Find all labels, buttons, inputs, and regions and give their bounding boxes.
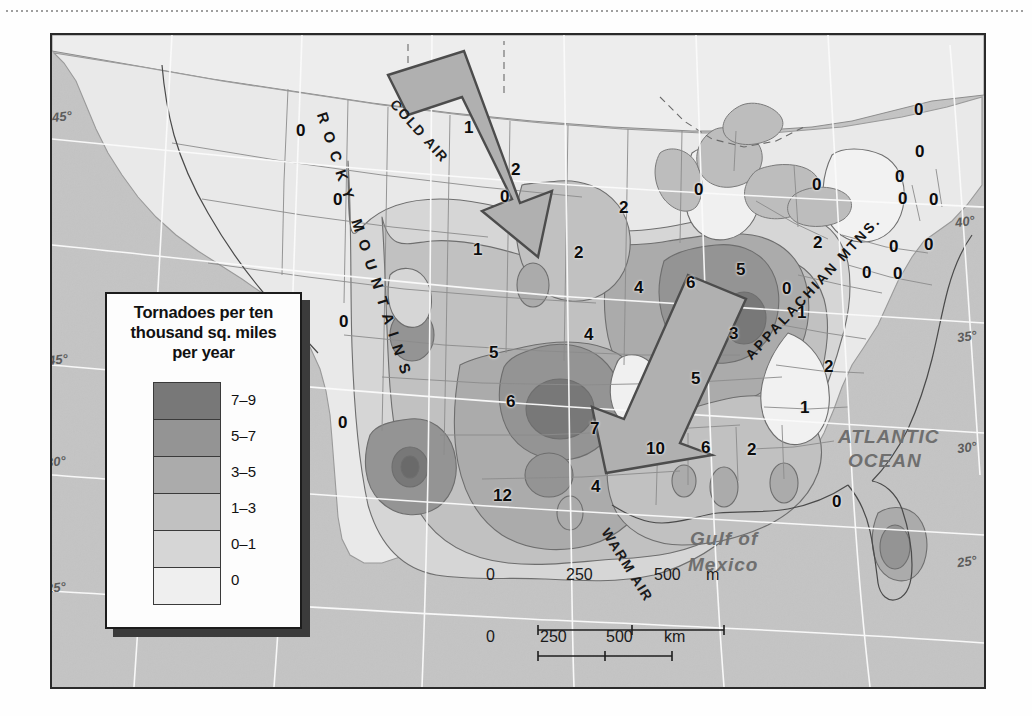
tornado-value: 1 [464,118,473,138]
tornado-value: 2 [813,233,822,253]
tornado-value: 1 [473,240,482,260]
tornado-value: 2 [574,243,583,263]
geo-label: OCEAN [848,450,922,472]
tornado-value: 6 [701,438,710,458]
tornado-value: 4 [591,477,600,497]
latitude-label-right: 35° [956,328,978,346]
tornado-value: 4 [584,325,593,345]
geo-label: Gulf of [690,528,758,550]
tornado-value: 0 [832,492,841,512]
legend-swatch-column [153,382,221,605]
tornado-value: 0 [812,175,821,195]
scale-tick-km: 0 [486,628,495,646]
tornado-value: 1 [800,398,809,418]
latitude-label-left: 45° [51,108,72,125]
page-top-rule [6,10,1026,12]
tornado-value: 0 [694,180,703,200]
tornado-value: 10 [646,439,665,459]
legend-title: Tornadoes per ten thousand sq. miles per… [114,302,293,362]
tornado-value: 0 [862,263,871,283]
tornado-value: 0 [893,264,902,284]
legend-label-column: 7–95–73–51–30–10 [231,382,256,598]
legend-range-label: 7–9 [231,382,256,418]
legend-swatch-2 [154,457,220,494]
legend-range-label: 3–5 [231,454,256,490]
latitude-label-right: 40° [954,213,976,231]
page-canvas: 0120020000001246520000010003452561710621… [0,0,1032,716]
tornado-value: 12 [493,486,512,506]
scale-tick-miles: 0 [486,566,495,584]
tornado-value: 0 [339,312,348,332]
latitude-label-left: 25° [50,579,66,596]
tornado-value: 7 [590,419,599,439]
legend-box: Tornadoes per ten thousand sq. miles per… [105,292,302,629]
tornado-value: 0 [782,279,791,299]
legend-range-label: 0–1 [231,526,256,562]
tornado-value: 6 [506,392,515,412]
tornado-value: 2 [824,357,833,377]
tornado-value: 5 [691,369,700,389]
tornado-value: 0 [924,235,933,255]
legend-range-label: 5–7 [231,418,256,454]
tornado-value: 3 [729,324,738,344]
latitude-label-right: 30° [956,439,978,457]
tornado-value: 2 [747,440,756,460]
geo-label: Mexico [688,554,758,576]
scale-tick-miles: 500 [654,566,681,584]
tornado-value: 0 [915,142,924,162]
tornado-value: 6 [686,273,695,293]
tornado-value: 0 [296,121,305,141]
scale-tick-km: 500 [606,628,633,646]
tornado-value: 0 [898,189,907,209]
tornado-value: 0 [889,237,898,257]
tornado-value: 0 [914,100,923,120]
tornado-value: 5 [736,260,745,280]
scale-tick-km: 250 [540,628,567,646]
legend-swatch-0 [154,383,220,420]
tornado-value: 2 [511,160,520,180]
legend-range-label: 1–3 [231,490,256,526]
tornado-value: 0 [895,167,904,187]
tornado-value: 0 [338,413,347,433]
latitude-label-left: 30° [50,453,66,470]
tornado-value: 0 [500,187,509,207]
tornado-value: 5 [489,343,498,363]
map-legend: Tornadoes per ten thousand sq. miles per… [105,292,310,637]
legend-swatch-1 [154,420,220,457]
latitude-label-left: 45° [50,351,68,368]
legend-swatch-4 [154,531,220,568]
scale-unit-miles: m [706,566,719,584]
latitude-label-right: 25° [956,553,978,571]
tornado-value: 2 [619,198,628,218]
legend-swatch-5 [154,568,220,604]
tornado-value: 4 [634,278,643,298]
scale-unit-km: km [664,628,685,646]
scale-tick-miles: 250 [566,566,593,584]
geo-label: ATLANTIC [838,426,940,448]
legend-swatch-3 [154,494,220,531]
tornado-value: 0 [929,190,938,210]
legend-range-label: 0 [231,562,256,598]
